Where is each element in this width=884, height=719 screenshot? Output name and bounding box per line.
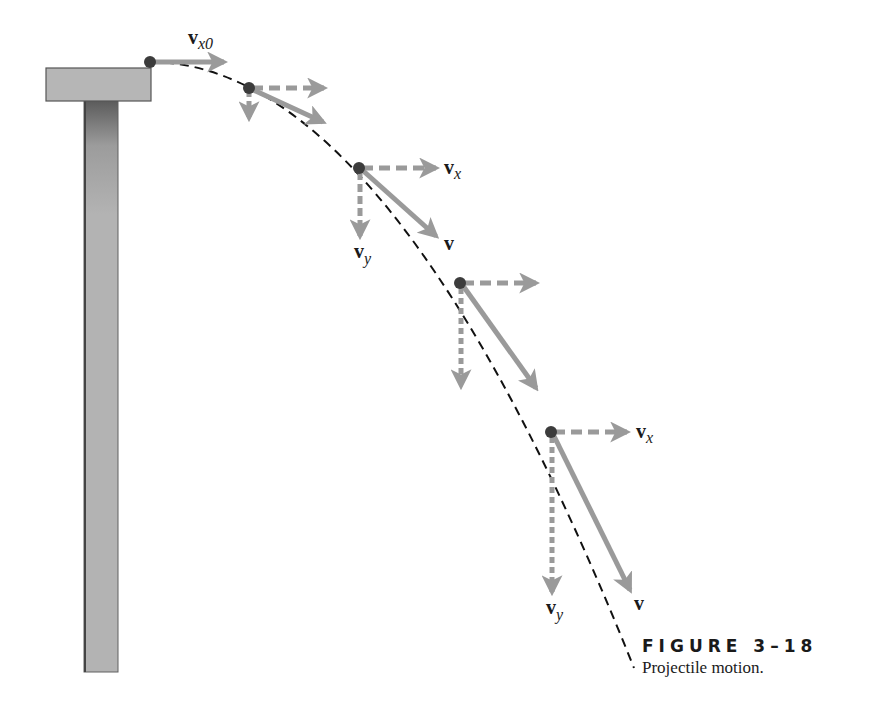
label-vx-1: vx <box>444 156 461 182</box>
position-0: vx0 <box>144 26 224 68</box>
ball-4 <box>545 426 557 438</box>
position-4: vx vy v <box>545 420 653 624</box>
label-vy-2: vy <box>546 596 564 624</box>
ball-3 <box>454 277 466 289</box>
label-v-2: v <box>634 592 644 614</box>
cliff-pillar <box>84 100 118 672</box>
figure-caption: Projectile motion. <box>642 658 764 678</box>
vector-v-4 <box>552 432 630 590</box>
projectile-motion-diagram: vx0 vx vy v vx vy v <box>0 0 884 719</box>
label-vx-2: vx <box>636 420 653 446</box>
vector-v-2 <box>360 168 436 236</box>
ball-2 <box>353 162 365 174</box>
label-vx0: vx0 <box>188 26 213 52</box>
position-2: vx vy v <box>353 156 461 268</box>
ball-1 <box>243 82 255 94</box>
vector-v-1 <box>249 88 323 122</box>
cliff <box>46 68 151 672</box>
cliff-top <box>46 68 151 101</box>
label-vy-1: vy <box>354 240 372 268</box>
figure-number: FIGURE 3–18 <box>642 636 817 656</box>
label-v-1: v <box>444 232 454 254</box>
trajectory-curve <box>150 62 634 668</box>
vector-v-3 <box>461 283 536 388</box>
position-1 <box>243 82 324 122</box>
ball-0 <box>144 56 156 68</box>
